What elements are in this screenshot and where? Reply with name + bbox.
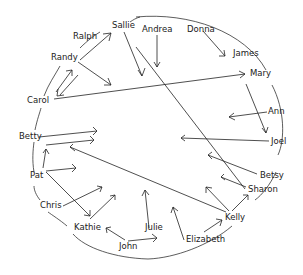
node-andrea: Andrea (142, 24, 172, 34)
node-ann: Ann (268, 106, 285, 116)
node-pat: Pat (30, 170, 44, 180)
node-james: James (232, 48, 259, 58)
node-sharon: Sharon (248, 184, 278, 194)
node-julie: Julie (144, 222, 163, 232)
node-donna: Donna (187, 24, 215, 34)
node-john: John (118, 241, 137, 251)
node-ralph: Ralph (73, 31, 97, 41)
sociogram-diagram: Sallie Andrea Donna Ralph James Randy Ma… (0, 0, 303, 275)
node-sallie: Sallie (112, 20, 135, 30)
node-chris: Chris (40, 200, 62, 210)
node-carol: Carol (27, 95, 49, 105)
node-mary: Mary (250, 68, 271, 78)
node-joel: Joel (270, 136, 286, 146)
node-labels: Sallie Andrea Donna Ralph James Randy Ma… (19, 20, 286, 251)
node-betty: Betty (19, 131, 42, 141)
node-kelly: Kelly (225, 212, 245, 222)
node-betsy: Betsy (260, 170, 284, 180)
node-randy: Randy (51, 52, 78, 62)
edges (39, 31, 269, 242)
node-kathie: Kathie (74, 222, 101, 232)
node-elizabeth: Elizabeth (186, 234, 225, 244)
